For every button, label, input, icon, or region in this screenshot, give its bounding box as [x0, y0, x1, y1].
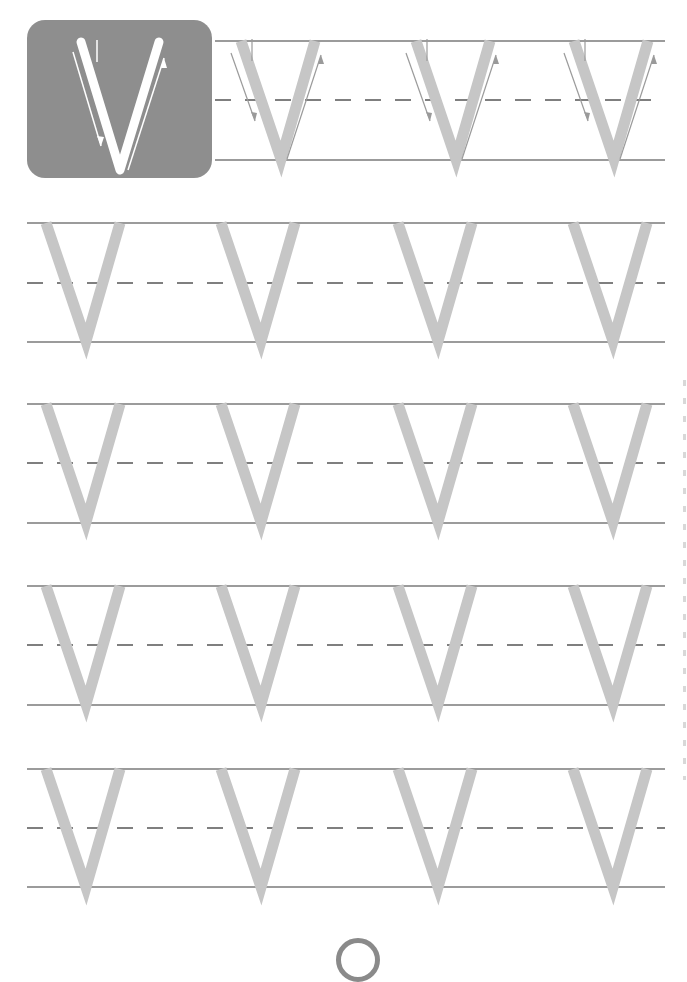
tracing-row-2	[27, 223, 665, 342]
page-number-badge	[336, 938, 380, 982]
page-edge-marks	[683, 380, 686, 780]
tracing-row-4	[27, 586, 665, 705]
tracing-row-5	[27, 769, 665, 887]
tracing-row-3	[27, 404, 665, 523]
tracing-row-1	[215, 39, 665, 160]
